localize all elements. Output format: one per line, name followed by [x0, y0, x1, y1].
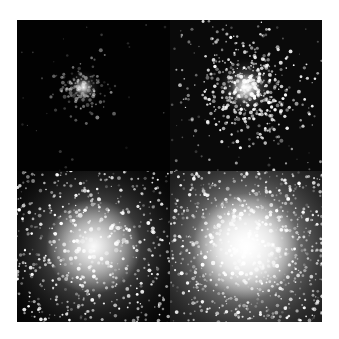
cluster-image: [170, 171, 322, 322]
star-cluster-mosaic: [17, 20, 322, 322]
panel-bottom-left-bright-cluster: [17, 171, 170, 322]
panel-top-right-medium-cluster: [170, 20, 322, 171]
panel-top-left-faint-cluster: [17, 20, 170, 171]
cluster-image: [17, 20, 170, 171]
cluster-image: [170, 20, 322, 171]
cluster-image: [17, 171, 170, 322]
panel-bottom-right-saturated-cluster: [170, 171, 322, 322]
